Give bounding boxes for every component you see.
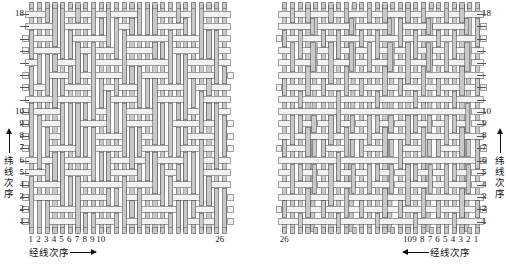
x-tick-8: 8 [418, 235, 426, 244]
y-tick-mark [20, 51, 29, 52]
x-tick-7: 7 [73, 235, 81, 244]
x-tick-4: 4 [50, 235, 58, 244]
x-tick-3: 3 [42, 235, 50, 244]
y-axis-title-char-0: 纬 [495, 155, 505, 166]
x-tick-1: 1 [27, 235, 35, 244]
y-axis-title-char-1: 线 [495, 166, 505, 177]
y-tick-mark [477, 161, 486, 162]
y-tick-mark [20, 222, 29, 223]
x-tick-4: 4 [449, 235, 457, 244]
x-tick-2: 2 [35, 235, 43, 244]
y-axis-title-char-3: 序 [4, 188, 14, 199]
panel-left: 1810987654321 12345678910 26 经线次序 纬 线 次 … [0, 0, 253, 271]
y-tick-mark [477, 197, 486, 198]
right-arrow-icon [70, 252, 96, 253]
y-axis-title-char-1: 线 [4, 166, 14, 177]
y-tick-mark [477, 63, 486, 64]
y-tick-mark [477, 185, 486, 186]
x-tick-6: 6 [434, 235, 442, 244]
x-tick-9: 9 [89, 235, 97, 244]
y-tick-mark [20, 148, 29, 149]
x-axis-title-left: 经线次序 [29, 248, 96, 258]
x-tick-6: 6 [65, 235, 73, 244]
x-axis-end-label-left: 26 [215, 235, 224, 244]
x-axis-title-text-left: 经线次序 [29, 248, 69, 258]
y-tick-mark [477, 26, 486, 27]
y-tick-mark [477, 75, 486, 76]
x-axis-ticks-right: 10987654321 [403, 235, 480, 244]
y-axis-title-char-2: 次 [4, 177, 14, 188]
weave-diagram-figure: { "figure": { "title_visible": false, "p… [0, 0, 506, 271]
x-tick-8: 8 [81, 235, 89, 244]
x-tick-2: 2 [465, 235, 473, 244]
y-tick-mark [477, 100, 486, 101]
y-tick-mark [20, 124, 29, 125]
y-tick-mark [20, 185, 29, 186]
y-tick-mark [20, 87, 29, 88]
x-axis-title-right: 经线次序 [403, 248, 470, 258]
x-axis-end-label-right: 26 [280, 235, 289, 244]
y-tick-mark [20, 39, 29, 40]
y-tick-mark [20, 14, 29, 15]
y-tick-mark [20, 209, 29, 210]
y-tick-mark [477, 112, 486, 113]
y-tick-mark [477, 173, 486, 174]
x-tick-5: 5 [441, 235, 449, 244]
y-axis-title-char-2: 次 [495, 177, 505, 188]
x-tick-5: 5 [58, 235, 66, 244]
y-tick-mark [20, 197, 29, 198]
y-tick-mark [477, 209, 486, 210]
up-arrow-icon [500, 133, 501, 153]
y-tick-mark [477, 222, 486, 223]
x-tick-10: 10 [96, 235, 104, 244]
y-tick-mark [20, 136, 29, 137]
y-axis-title-char-0: 纬 [4, 155, 14, 166]
panel-right: 1810987654321 10987654321 26 经线次序 纬 线 次 … [253, 0, 506, 271]
y-tick-mark [20, 75, 29, 76]
y-tick-mark [20, 26, 29, 27]
y-tick-mark [20, 63, 29, 64]
y-tick-mark [20, 161, 29, 162]
y-tick-mark [477, 39, 486, 40]
y-tick-mark [20, 173, 29, 174]
x-tick-10: 10 [403, 235, 411, 244]
y-tick-mark [477, 124, 486, 125]
y-tick-mark [477, 136, 486, 137]
y-tick-mark [20, 100, 29, 101]
x-axis-ticks-left: 12345678910 [27, 235, 104, 244]
y-axis-title-left: 纬 线 次 序 [3, 133, 15, 199]
x-tick-1: 1 [472, 235, 480, 244]
y-tick-mark [20, 112, 29, 113]
y-tick-mark [477, 14, 486, 15]
x-tick-7: 7 [426, 235, 434, 244]
y-axis-title-right: 纬 线 次 序 [494, 133, 506, 199]
y-tick-mark [477, 87, 486, 88]
y-axis-title-char-3: 序 [495, 188, 505, 199]
x-tick-9: 9 [411, 235, 419, 244]
x-tick-3: 3 [457, 235, 465, 244]
y-tick-mark [477, 148, 486, 149]
x-axis-title-text-right: 经线次序 [430, 248, 470, 258]
up-arrow-icon [9, 133, 10, 153]
y-tick-mark [477, 51, 486, 52]
left-arrow-icon [403, 252, 429, 253]
